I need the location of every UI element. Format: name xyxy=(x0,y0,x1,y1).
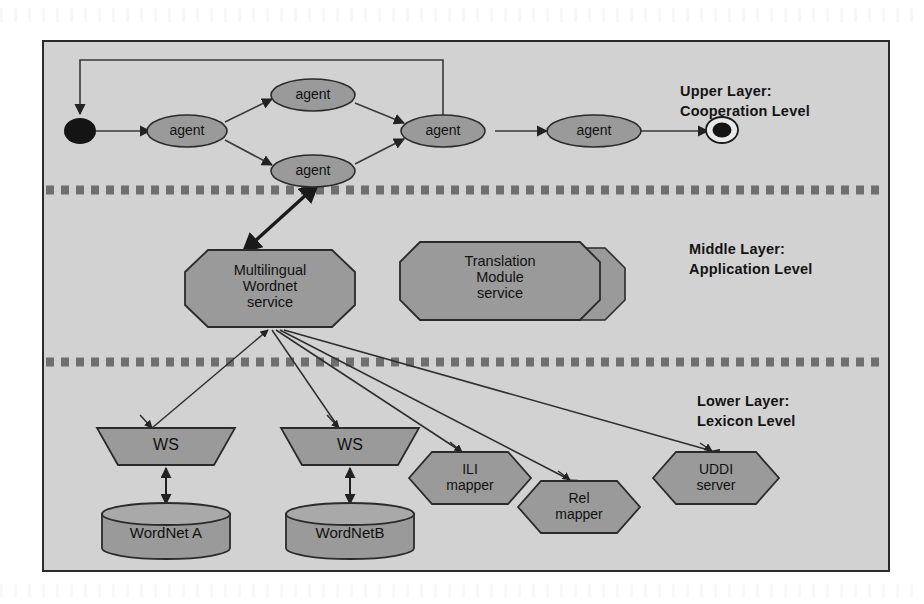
database-wordnet-b[interactable] xyxy=(286,503,414,559)
edge-ws-b-to-mlwn xyxy=(272,330,339,428)
arrowhead-into-ws-a xyxy=(140,415,152,428)
edge-agent2-to-agent4 xyxy=(355,103,404,123)
component-ili-mapper[interactable] xyxy=(409,452,531,504)
agent-ellipse-2[interactable] xyxy=(271,79,355,111)
agent-ellipse-1[interactable] xyxy=(147,115,227,147)
layer-caption-upper: Upper Layer: Cooperation Level xyxy=(680,82,810,121)
edge-agent3-to-agent4 xyxy=(355,139,404,164)
edge-mlwn-to-agent3 xyxy=(243,184,318,252)
component-uddi-server[interactable] xyxy=(653,452,779,504)
diagram-page: agent agent agent agent agent Multilingu… xyxy=(0,0,924,604)
edge-agent1-to-agent2 xyxy=(225,99,272,122)
web-service-trapezoid-b[interactable] xyxy=(281,428,419,465)
database-wordnet-a[interactable] xyxy=(102,503,230,559)
service-translation-module[interactable] xyxy=(400,242,600,320)
layer-caption-middle: Middle Layer: Application Level xyxy=(689,240,812,279)
web-service-trapezoid-a[interactable] xyxy=(97,428,235,465)
component-rel-mapper[interactable] xyxy=(518,481,640,533)
arrowhead-into-ili xyxy=(450,442,462,452)
start-node-icon xyxy=(64,118,96,144)
service-multilingual-wordnet[interactable] xyxy=(185,250,355,327)
agent-ellipse-3[interactable] xyxy=(271,155,355,187)
edge-ws-a-to-mlwn xyxy=(152,330,268,428)
layer-caption-lower: Lower Layer: Lexicon Level xyxy=(697,392,796,431)
agent-ellipse-4[interactable] xyxy=(401,115,485,147)
agent-ellipse-5[interactable] xyxy=(547,115,641,147)
edge-agent1-to-agent3 xyxy=(225,140,272,165)
edge-feedback-loop xyxy=(80,60,443,118)
arrowhead-into-ws-b xyxy=(327,415,339,428)
